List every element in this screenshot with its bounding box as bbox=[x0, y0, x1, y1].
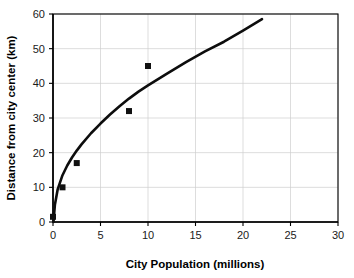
y-tick-label: 30 bbox=[33, 112, 45, 124]
y-tick-label: 20 bbox=[33, 147, 45, 159]
data-point-marker bbox=[60, 184, 66, 190]
y-axis-title: Distance from city center (km) bbox=[5, 35, 17, 200]
x-tick-label: 30 bbox=[332, 229, 344, 241]
data-point-marker bbox=[74, 160, 80, 166]
chart-figure: 051015202530 0102030405060 City Populati… bbox=[0, 0, 354, 278]
x-tick-label: 25 bbox=[284, 229, 296, 241]
y-tick-label: 60 bbox=[33, 8, 45, 20]
x-tick-label: 0 bbox=[50, 229, 56, 241]
x-tick-label: 20 bbox=[237, 229, 249, 241]
x-tick-label: 5 bbox=[97, 229, 103, 241]
y-tick-label: 50 bbox=[33, 43, 45, 55]
y-tick-label: 40 bbox=[33, 77, 45, 89]
x-tick-label: 10 bbox=[142, 229, 154, 241]
data-point-marker bbox=[145, 63, 151, 69]
scatter-chart: 051015202530 0102030405060 City Populati… bbox=[0, 0, 354, 278]
data-point-marker bbox=[50, 214, 56, 220]
x-axis-title: City Population (millions) bbox=[126, 258, 265, 270]
y-tick-label: 10 bbox=[33, 181, 45, 193]
x-tick-label: 15 bbox=[189, 229, 201, 241]
data-point-marker bbox=[126, 108, 132, 114]
y-tick-label: 0 bbox=[39, 216, 45, 228]
